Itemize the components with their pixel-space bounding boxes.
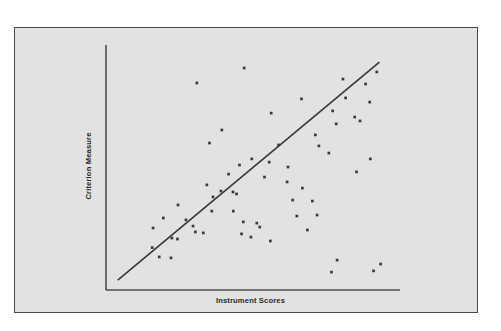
scatter-point xyxy=(369,158,372,161)
scatter-point xyxy=(232,210,235,213)
scatter-point xyxy=(277,144,280,147)
scatter-point xyxy=(379,263,382,266)
scatter-point xyxy=(196,82,199,85)
scatter-point xyxy=(250,158,253,161)
scatter-point xyxy=(344,97,347,100)
scatter-point xyxy=(243,67,246,70)
scatter-point xyxy=(364,83,367,86)
scatter-point xyxy=(258,226,261,229)
scatter-point xyxy=(335,123,338,126)
scatter-point xyxy=(372,270,375,273)
scatter-point xyxy=(287,166,290,169)
scatter-point xyxy=(263,176,266,179)
scatter-point xyxy=(314,134,317,137)
scatter-point xyxy=(212,196,215,199)
scatter-point xyxy=(151,246,154,249)
scatter-point xyxy=(286,181,289,184)
scatter-point xyxy=(210,210,213,213)
scatter-point xyxy=(295,215,298,218)
scatter-point xyxy=(170,257,173,260)
scatter-point xyxy=(300,98,303,101)
scatter-point xyxy=(152,227,155,230)
scatter-point xyxy=(301,187,304,190)
y-axis-label-container: Criterion Measure xyxy=(30,0,150,331)
scatter-point xyxy=(316,214,319,217)
regression-trend-line xyxy=(118,62,380,280)
scatter-point xyxy=(311,200,314,203)
scatter-point xyxy=(268,161,271,164)
scatter-point xyxy=(177,204,180,207)
scatter-point xyxy=(331,110,334,113)
scatter-plot-figure: Criterion Measure Instrument Scores xyxy=(0,0,501,331)
scatter-point xyxy=(330,271,333,274)
scatter-point xyxy=(242,221,245,224)
scatter-point xyxy=(353,116,356,119)
scatter-point xyxy=(375,71,378,74)
scatter-point xyxy=(359,120,362,123)
scatter-point xyxy=(162,217,165,220)
scatter-point xyxy=(250,236,253,239)
scatter-point xyxy=(291,199,294,202)
scatter-point xyxy=(255,222,258,225)
scatter-point xyxy=(240,233,243,236)
scatter-point xyxy=(220,190,223,193)
scatter-point xyxy=(306,229,309,232)
scatter-point xyxy=(269,240,272,243)
scatter-point xyxy=(192,225,195,228)
scatter-point xyxy=(171,237,174,240)
scatter-point xyxy=(342,78,345,81)
scatter-point xyxy=(158,256,161,259)
scatter-point xyxy=(270,112,273,115)
scatter-point xyxy=(318,145,321,148)
scatter-point xyxy=(232,191,235,194)
y-axis-label: Criterion Measure xyxy=(84,132,93,199)
scatter-point xyxy=(185,219,188,222)
scatter-point xyxy=(368,101,371,104)
scatter-point xyxy=(235,193,238,196)
scatter-point xyxy=(227,173,230,176)
x-axis-label: Instrument Scores xyxy=(0,296,501,305)
scatter-point xyxy=(194,231,197,234)
scatter-point xyxy=(328,152,331,155)
scatter-point xyxy=(355,171,358,174)
scatter-point xyxy=(220,129,223,132)
scatter-point xyxy=(202,232,205,235)
scatter-point xyxy=(238,164,241,167)
scatter-points-group xyxy=(151,67,382,274)
scatter-point xyxy=(336,259,339,262)
scatter-point xyxy=(205,184,208,187)
scatter-point xyxy=(208,142,211,145)
scatter-point xyxy=(176,238,179,241)
